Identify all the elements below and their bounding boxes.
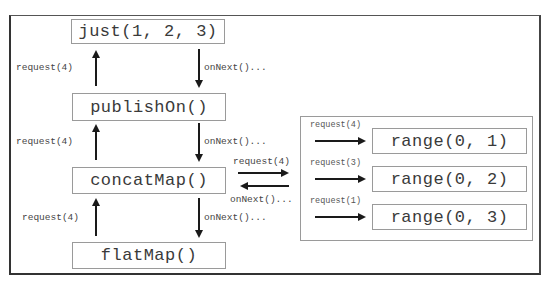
operator-flatmap-label: flatMap() [101, 246, 197, 265]
source-range-1-box: range(0, 1) [372, 128, 527, 154]
request-label-just: request(4) [16, 63, 73, 73]
onnext-label-publishon: onNext()... [204, 137, 267, 147]
operator-publishon-box: publishOn() [72, 93, 226, 121]
source-request-label-3: request(1) [310, 197, 361, 206]
source-range-2-box: range(0, 2) [372, 166, 527, 192]
source-range-3-label: range(0, 3) [391, 208, 509, 227]
source-range-2-label: range(0, 2) [391, 170, 509, 189]
onnext-label-concatmap: onNext()... [204, 213, 267, 223]
source-range-1-label: range(0, 1) [391, 132, 509, 151]
onnext-label-just: onNext()... [204, 63, 267, 73]
request-label-concatmap: request(4) [22, 213, 79, 223]
inner-request-label: request(4) [233, 157, 290, 167]
operator-just-label: just(1, 2, 3) [78, 22, 217, 41]
request-label-publishon: request(4) [16, 137, 73, 147]
operator-just-box: just(1, 2, 3) [71, 19, 225, 44]
inner-onnext-label: onNext()... [230, 195, 293, 205]
operator-publishon-label: publishOn() [90, 98, 208, 117]
source-request-label-2: request(3) [310, 159, 361, 168]
source-request-label-1: request(4) [310, 121, 361, 130]
operator-concatmap-label: concatMap() [90, 171, 208, 190]
source-range-3-box: range(0, 3) [372, 204, 527, 230]
operator-concatmap-box: concatMap() [72, 167, 226, 194]
operator-flatmap-box: flatMap() [72, 242, 226, 269]
